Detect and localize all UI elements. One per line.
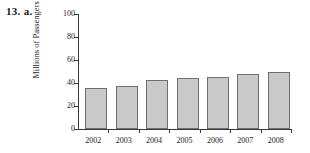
bar (207, 77, 229, 129)
bar (268, 72, 290, 130)
y-tick-label: 40 (67, 78, 75, 88)
bar-chart: Millions of Passengers 020406080100 2002… (0, 0, 310, 153)
bar (116, 86, 138, 129)
bar (237, 74, 259, 129)
bar (146, 80, 168, 129)
x-axis-line (78, 129, 291, 130)
y-axis-line (78, 14, 79, 129)
x-tick-mark (200, 129, 201, 133)
x-tick-mark (291, 129, 292, 133)
x-tick-label: 2006 (200, 136, 230, 146)
x-tick-label: 2008 (261, 136, 291, 146)
y-tick-label: 0 (71, 124, 75, 134)
x-tick-label: 2004 (139, 136, 169, 146)
x-tick-label: 2005 (169, 136, 199, 146)
y-tick-label: 20 (67, 101, 75, 111)
y-axis-title: Millions of Passengers (31, 0, 41, 88)
y-tick-label: 60 (67, 55, 75, 65)
y-tick-label: 80 (67, 32, 75, 42)
x-tick-mark (230, 129, 231, 133)
x-tick-mark (261, 129, 262, 133)
y-tick-label: 100 (63, 9, 75, 19)
figure-container: 13. a. Millions of Passengers 0204060801… (0, 0, 310, 153)
x-tick-mark (169, 129, 170, 133)
bar (177, 78, 199, 129)
x-tick-label: 2002 (78, 136, 108, 146)
plot-area: 020406080100 200220032004200520062007200… (78, 14, 293, 129)
x-tick-label: 2003 (108, 136, 138, 146)
bar (85, 88, 107, 129)
x-tick-mark (108, 129, 109, 133)
x-tick-label: 2007 (230, 136, 260, 146)
x-tick-mark (139, 129, 140, 133)
